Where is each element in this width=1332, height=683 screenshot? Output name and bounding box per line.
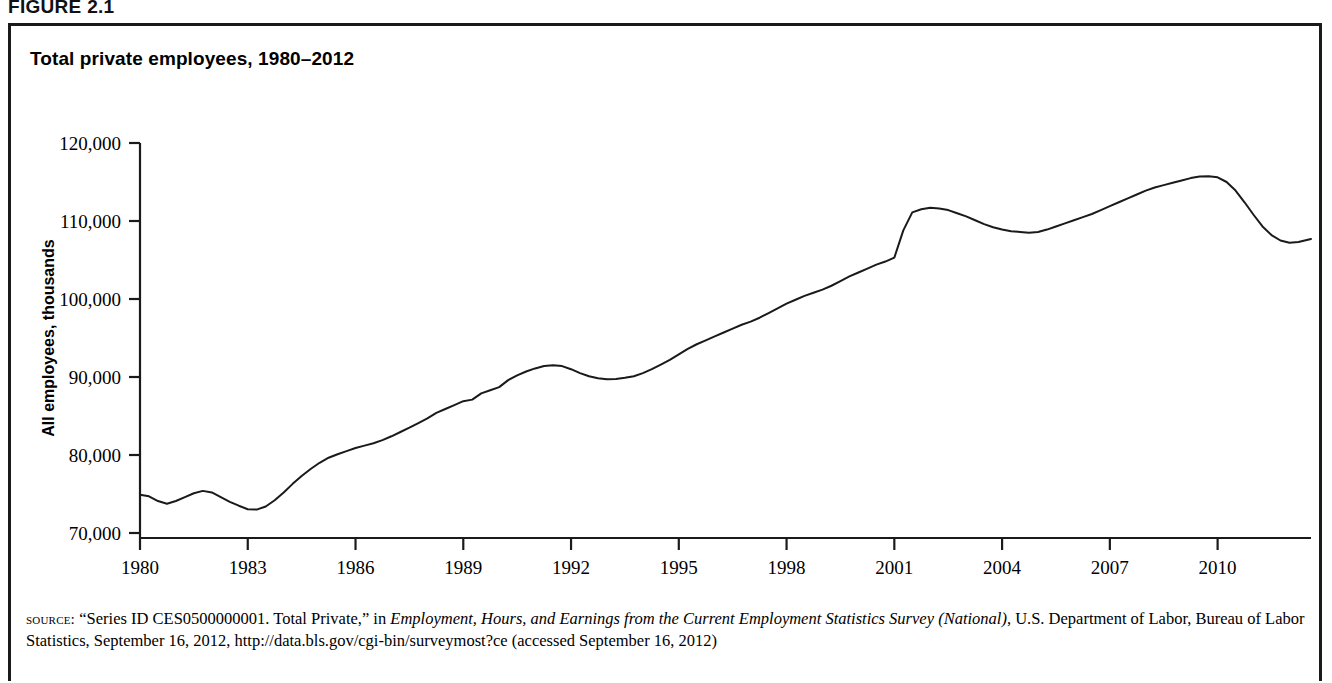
source-label: source: <box>26 610 75 627</box>
x-tick-label: 1983 <box>229 557 267 578</box>
x-tick-label: 1989 <box>444 557 482 578</box>
figure-number-header: FIGURE 2.1 <box>8 0 114 18</box>
source-italic-title: Employment, Hours, and Earnings from the… <box>390 609 1007 628</box>
x-tick-label: 1998 <box>768 557 806 578</box>
source-text-part1: “Series ID CES0500000001. Total Private,… <box>79 609 390 628</box>
line-chart: 70,00080,00090,000100,000110,000120,000 … <box>8 23 1322 593</box>
x-axis-title: Year <box>709 591 743 593</box>
x-tick-label: 1995 <box>660 557 698 578</box>
y-tick-label: 100,000 <box>59 289 121 310</box>
x-axis-ticks: 1980198319861989199219951998200120042007… <box>121 538 1237 578</box>
y-tick-label: 90,000 <box>69 367 121 388</box>
y-axis-ticks: 70,00080,00090,000100,000110,000120,000 <box>59 133 140 544</box>
x-tick-label: 1992 <box>552 557 590 578</box>
y-tick-label: 120,000 <box>59 133 121 154</box>
y-tick-label: 80,000 <box>69 445 121 466</box>
x-tick-label: 2010 <box>1199 557 1237 578</box>
x-tick-label: 1980 <box>121 557 159 578</box>
x-tick-label: 2004 <box>983 557 1022 578</box>
x-tick-label: 1986 <box>337 557 375 578</box>
x-tick-label: 2001 <box>875 557 913 578</box>
y-tick-label: 110,000 <box>60 211 121 232</box>
data-series-line <box>140 176 1311 509</box>
chart-plot-area: 70,00080,00090,000100,000110,000120,000 … <box>8 23 1322 593</box>
x-tick-label: 2007 <box>1091 557 1129 578</box>
y-tick-label: 70,000 <box>69 523 121 544</box>
source-note: source: “Series ID CES0500000001. Total … <box>26 608 1316 651</box>
y-axis-title: All employees, thousands <box>40 239 57 436</box>
